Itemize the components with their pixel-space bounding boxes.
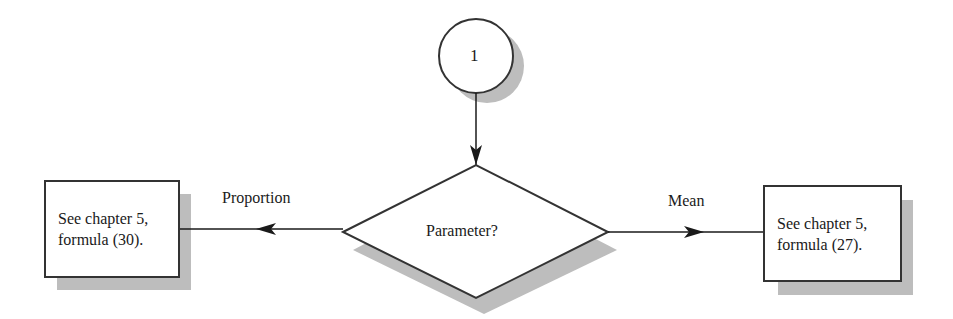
mean-target-line1: See chapter 5, xyxy=(777,213,900,234)
mean-target-line2: formula (27). xyxy=(777,234,900,255)
mean-branch-label: Mean xyxy=(668,191,704,211)
mean-target-box: See chapter 5, formula (27). xyxy=(763,185,902,282)
decision-label: Parameter? xyxy=(426,221,498,241)
proportion-target-line2: formula (30). xyxy=(58,229,178,250)
proportion-target-line1: See chapter 5, xyxy=(58,208,178,229)
connector-label: 1 xyxy=(470,46,479,66)
proportion-branch-label: Proportion xyxy=(222,188,290,208)
proportion-target-box: See chapter 5, formula (30). xyxy=(44,180,180,278)
